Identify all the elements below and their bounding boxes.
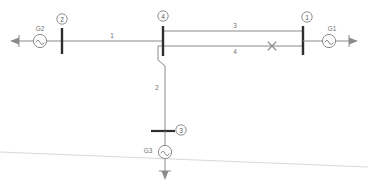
bus-3-label: 3 — [179, 127, 183, 134]
generator-g3-symbol — [158, 145, 171, 158]
bus-4-label: 4 — [161, 13, 165, 20]
generator-g1-label: G1 — [328, 25, 337, 32]
bus-1-label: 1 — [305, 14, 309, 21]
branch-3-label: 3 — [233, 22, 237, 29]
generator-g2-label: G2 — [36, 25, 45, 32]
terminal-right-arrow-icon — [349, 38, 358, 45]
generator-g2-symbol — [33, 34, 46, 47]
terminal-left-arrow-icon — [10, 38, 19, 45]
branch-4-label: 4 — [233, 48, 237, 55]
generator-g3-label: G3 — [144, 147, 153, 154]
terminal-down-arrow-icon — [162, 171, 169, 180]
generator-g1-symbol — [322, 34, 335, 47]
scan-artifact-line — [0, 152, 368, 167]
bus-2-label: 2 — [60, 16, 64, 23]
branch-2-label: 2 — [155, 84, 159, 91]
branch-2-bend — [158, 60, 165, 66]
single-line-diagram: 2 4 1 3 G2 G1 G3 1 2 3 4 — [0, 0, 368, 186]
branch-1-label: 1 — [110, 32, 114, 39]
diagram-canvas: 2 4 1 3 G2 G1 G3 1 2 3 4 — [0, 0, 368, 186]
